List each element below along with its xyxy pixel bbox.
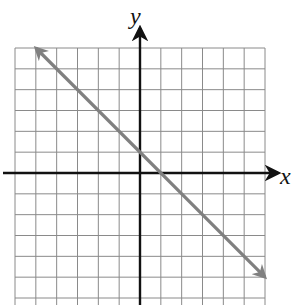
plotted-line (36, 48, 265, 277)
axes (3, 28, 278, 305)
y-axis-label: y (130, 4, 141, 28)
coordinate-plane (0, 0, 295, 305)
x-axis-label: x (280, 164, 291, 188)
